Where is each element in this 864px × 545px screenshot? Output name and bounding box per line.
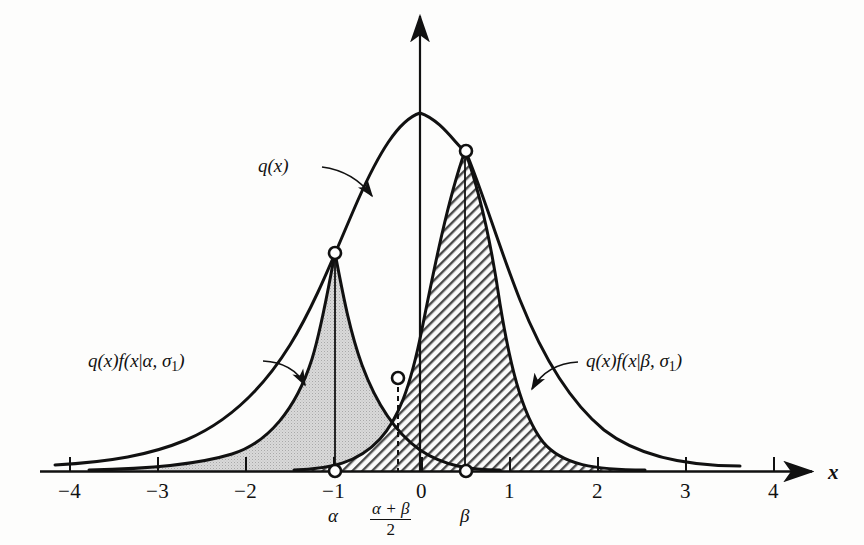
x-tick-label--4: −4 — [58, 479, 81, 504]
left-annot-head: q(x)f(x — [88, 350, 139, 371]
midpoint-denominator: 2 — [370, 520, 411, 539]
right-annot-head: q(x)f(x — [586, 350, 637, 371]
alpha-axis-marker — [329, 465, 341, 477]
alpha-peak-marker — [329, 247, 341, 259]
x-tick-label-4: 4 — [768, 479, 779, 504]
midpoint-label: α + β 2 — [370, 500, 411, 539]
left-annot-tail: ) — [178, 350, 184, 371]
plot-canvas — [0, 0, 864, 545]
x-tick-label--1: −1 — [322, 479, 345, 504]
probability-density-figure: −4 −3 −2 −1 0 1 2 3 4 x α β α + β 2 q(x)… — [0, 0, 864, 545]
midpoint-numerator: α + β — [370, 500, 411, 520]
envelope-annotation-label: q(x) — [258, 155, 289, 177]
envelope-annotation-arrow — [322, 167, 372, 196]
x-tick-label-1: 1 — [504, 479, 515, 504]
right-component-annotation-label: q(x)f(x|β, σ1) — [586, 350, 682, 375]
crossover-marker — [392, 372, 404, 384]
beta-peak-marker — [460, 145, 472, 157]
left-annot-mean: α — [142, 350, 152, 371]
beta-point-label: β — [460, 505, 469, 527]
x-tick-label--3: −3 — [146, 479, 169, 504]
x-axis-name: x — [828, 460, 839, 485]
x-tick-label--2: −2 — [234, 479, 257, 504]
beta-axis-marker — [460, 465, 472, 477]
x-tick-label-3: 3 — [680, 479, 691, 504]
x-tick-label-0: 0 — [416, 479, 427, 504]
right-annot-mean: β — [640, 350, 649, 371]
x-tick-label-2: 2 — [592, 479, 603, 504]
alpha-point-label: α — [328, 505, 338, 527]
left-annot-sigma: σ — [162, 350, 171, 371]
left-component-annotation-label: q(x)f(x|α, σ1) — [88, 350, 184, 375]
right-annot-tail: ) — [676, 350, 682, 371]
right-annotation-arrow — [532, 362, 578, 389]
right-annot-sigma-sub: 1 — [669, 359, 676, 374]
right-annot-sigma: σ — [659, 350, 668, 371]
